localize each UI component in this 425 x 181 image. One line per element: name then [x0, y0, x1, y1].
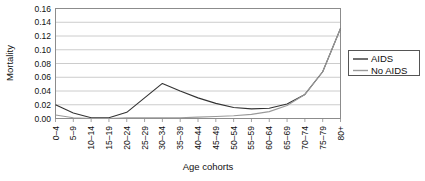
y-tick-label: 0.00 — [34, 114, 51, 124]
y-axis-tick-labels: 0.000.020.040.060.080.100.120.140.16 — [34, 4, 51, 124]
x-tick-label: 80+ — [336, 126, 346, 140]
y-tick-label: 0.08 — [34, 59, 51, 69]
x-tick-label: 35–39 — [175, 126, 185, 150]
x-tick-label: 75–79 — [318, 126, 328, 150]
x-tick-label: 55–59 — [246, 126, 256, 150]
y-tick-label: 0.16 — [34, 4, 51, 14]
gridlines — [56, 9, 341, 105]
x-tick-label: 60–64 — [264, 126, 274, 150]
x-tick-label: 20–24 — [122, 126, 132, 150]
x-tick-label: 0–4 — [51, 126, 61, 140]
x-tick-label: 30–34 — [157, 126, 167, 150]
y-tick-label: 0.14 — [34, 17, 51, 27]
mortality-line-chart: Mortality 0.000.020.040.060.080.100.120.… — [0, 0, 425, 181]
y-tick-label: 0.10 — [34, 45, 51, 55]
x-axis-title: Age cohorts — [183, 161, 234, 172]
chart-canvas: Mortality 0.000.020.040.060.080.100.120.… — [0, 0, 425, 181]
x-tick-label: 5–9 — [68, 126, 78, 140]
y-axis-title: Mortality — [4, 45, 15, 81]
x-tick-label: 65–69 — [282, 126, 292, 150]
y-tick-label: 0.06 — [34, 72, 51, 82]
x-tick-label: 50–54 — [229, 126, 239, 150]
x-tick-label: 15–19 — [104, 126, 114, 150]
legend: AIDSNo AIDS — [349, 51, 420, 76]
x-tick-label: 40–44 — [193, 126, 203, 150]
x-tick-label: 10–14 — [86, 126, 96, 150]
legend-label-no-aids: No AIDS — [371, 65, 407, 76]
y-tick-label: 0.04 — [34, 86, 51, 96]
x-axis-tick-labels: 0–45–910–1415–1920–2425–2930–3435–3940–4… — [51, 126, 346, 150]
x-tick-label: 70–74 — [300, 126, 310, 150]
legend-label-aids: AIDS — [371, 53, 393, 64]
y-tick-label: 0.02 — [34, 100, 51, 110]
x-tick-label: 25–29 — [140, 126, 150, 150]
y-tick-label: 0.12 — [34, 31, 51, 41]
x-tick-label: 45–49 — [211, 126, 221, 150]
